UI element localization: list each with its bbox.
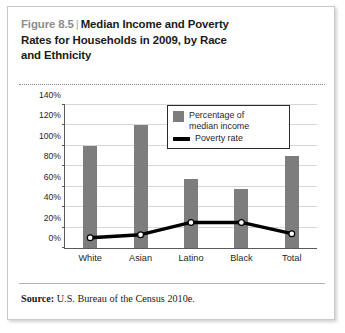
figure-title-line-1: Figure 8.5|Median Income and Poverty	[21, 17, 321, 33]
legend-item-poverty-rate: Poverty rate	[173, 133, 284, 144]
title-divider	[19, 83, 325, 85]
x-axis-label: Asian	[129, 253, 152, 263]
y-axis-tick-label: 40%	[19, 192, 61, 202]
legend-label-poverty-rate: Poverty rate	[195, 133, 243, 144]
legend-label-line-1: Percentage of	[189, 110, 249, 121]
y-axis-tick-label: 0%	[19, 233, 61, 243]
legend-swatch-icon	[173, 111, 184, 122]
figure-title-line-2: Rates for Households in 2009, by Race	[21, 33, 321, 49]
figure-title-line-3: and Ethnicity	[21, 48, 321, 64]
source-label: Source:	[21, 293, 54, 304]
y-axis-tick-label: 80%	[19, 151, 61, 161]
y-axis-tick-label: 120%	[19, 110, 61, 120]
poverty-rate-marker	[289, 231, 295, 237]
poverty-rate-marker	[239, 220, 245, 226]
y-axis-tick-label: 60%	[19, 172, 61, 182]
chart-area: 0%20%40%60%80%100%120%140% WhiteAsianLat…	[19, 91, 325, 277]
legend-label-median-income: Percentage of median income	[189, 110, 249, 131]
x-axis-label: Black	[230, 253, 252, 263]
y-axis-tick-label: 20%	[19, 213, 61, 223]
poverty-rate-marker	[138, 232, 144, 238]
source-divider	[19, 283, 325, 284]
figure-title-text-1: Median Income and Poverty	[81, 18, 229, 30]
y-axis-tick-label: 140%	[19, 90, 61, 100]
source-note: Source: U.S. Bureau of the Census 2010e.	[21, 293, 195, 304]
x-axis-label: Total	[282, 253, 301, 263]
figure-number: Figure 8.5	[21, 18, 74, 30]
legend-item-median-income: Percentage of median income	[173, 110, 284, 131]
figure-title-separator: |	[74, 18, 81, 30]
chart-legend: Percentage of median income Poverty rate	[167, 105, 290, 149]
y-axis-tick-label: 100%	[19, 131, 61, 141]
legend-line-icon	[173, 137, 190, 141]
figure-header: Figure 8.5|Median Income and Poverty Rat…	[21, 17, 321, 64]
legend-label-line-2: median income	[189, 121, 249, 132]
poverty-rate-marker	[188, 220, 194, 226]
figure-card: Figure 8.5|Median Income and Poverty Rat…	[7, 6, 335, 320]
poverty-rate-marker	[87, 235, 93, 241]
x-axis-label: Latino	[178, 253, 203, 263]
x-axis-label: White	[78, 253, 102, 263]
source-text: U.S. Bureau of the Census 2010e.	[57, 293, 195, 304]
